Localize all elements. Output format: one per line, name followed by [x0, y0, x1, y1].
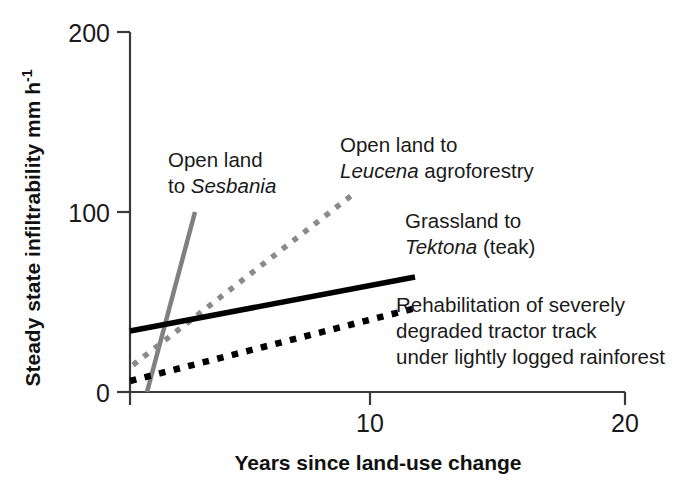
series-line-leucena: [133, 192, 356, 365]
y-tick-label-200: 200: [68, 19, 110, 47]
annotation-tektona-line2-plain: (teak): [477, 235, 535, 258]
y-tick-label-0: 0: [96, 379, 110, 407]
annotation-tektona-line2-italic: Tektona: [405, 235, 477, 258]
x-tick-label-20: 20: [611, 409, 639, 437]
x-axis-title: Years since land-use change: [234, 451, 521, 474]
svg-text:Steady state infiltrability mm: Steady state infiltrability mm h-1: [19, 69, 44, 386]
annotation-sesbania-line1: Open land: [168, 148, 263, 171]
figure-container: 200 100 0 10 20 Years since land-use cha…: [0, 0, 694, 496]
annotation-leucena-line2-italic: Leucena: [340, 159, 419, 182]
annotation-leucena: Open land to Leucena agroforestry: [340, 133, 534, 182]
x-tick-label-10: 10: [356, 409, 384, 437]
annotation-sesbania-line2-plain: to: [168, 174, 191, 197]
annotation-leucena-line2-plain: agroforestry: [419, 159, 535, 182]
annotation-sesbania: Open land to Sesbania: [168, 148, 276, 197]
annotation-rehabilitation-line3: under lightly logged rainforest: [396, 345, 665, 368]
annotation-sesbania-line2: to Sesbania: [168, 174, 276, 197]
annotation-tektona-line2: Tektona (teak): [405, 235, 535, 258]
y-axis-title-main: Steady state infiltrability mm h: [21, 82, 44, 387]
annotation-tektona: Grassland to Tektona (teak): [405, 209, 535, 258]
annotation-tektona-line1: Grassland to: [405, 209, 521, 232]
annotation-rehabilitation-line2: degraded tractor track: [396, 319, 597, 342]
y-tick-label-100: 100: [68, 199, 110, 227]
annotation-rehabilitation: Rehabilitation of severely degraded trac…: [396, 293, 665, 368]
series-line-sesbania: [147, 212, 195, 392]
y-axis-title-superscript: -1: [19, 69, 35, 82]
annotation-leucena-line2: Leucena agroforestry: [340, 159, 534, 182]
annotation-leucena-line1: Open land to: [340, 133, 457, 156]
annotation-rehabilitation-line1: Rehabilitation of severely: [396, 293, 626, 316]
infiltrability-chart: 200 100 0 10 20 Years since land-use cha…: [0, 0, 694, 496]
y-axis-title-group: Steady state infiltrability mm h-1: [19, 69, 44, 386]
annotation-sesbania-line2-italic: Sesbania: [191, 174, 276, 197]
data-series-group: [130, 192, 420, 392]
series-line-rehabilitation: [130, 307, 420, 381]
